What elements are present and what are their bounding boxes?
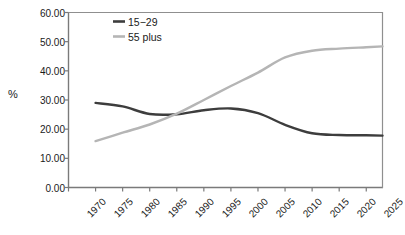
series-line: [96, 46, 383, 141]
series-line: [96, 103, 383, 136]
legend-item-15-29-label: 15−29: [128, 16, 158, 28]
axis-lines: [68, 12, 383, 188]
legend-item-55-plus-label: 55 plus: [128, 31, 162, 43]
legend-markers: [113, 22, 125, 37]
series-lines: [96, 46, 383, 141]
